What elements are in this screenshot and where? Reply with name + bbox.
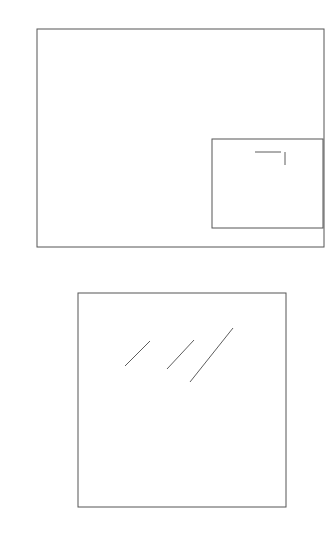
figure-canvas — [0, 0, 334, 546]
pointer-6-0T — [167, 340, 194, 369]
panel-a — [0, 0, 324, 247]
panel-b — [0, 0, 286, 507]
pointer-6-6T — [190, 328, 233, 382]
panel-b-frame — [78, 293, 286, 507]
panel-a-inset — [0, 0, 323, 228]
pointer-5-5T — [125, 341, 150, 366]
